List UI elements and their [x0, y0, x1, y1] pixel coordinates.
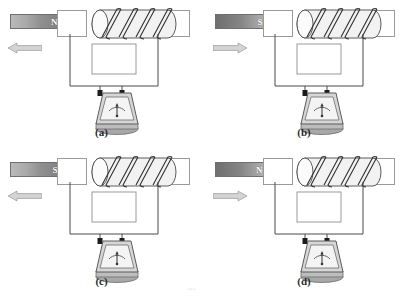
motion-arrow-right-icon — [213, 190, 247, 202]
circuit-wiring — [64, 182, 164, 244]
magnet-pole-label: N — [256, 165, 263, 175]
panel-caption: (b) — [203, 126, 405, 138]
motion-arrow-right-icon — [213, 42, 247, 54]
circuit-wiring — [64, 34, 164, 96]
motion-arrow-left-icon — [8, 42, 42, 54]
left-end-square — [263, 158, 293, 185]
circuit-wiring — [269, 182, 369, 244]
motion-arrow-left-icon — [8, 190, 42, 202]
left-end-square — [263, 10, 293, 37]
panel-caption: (c) — [0, 275, 203, 287]
left-end-square — [57, 10, 87, 37]
left-end-square — [57, 158, 87, 185]
panel-d: N — [203, 148, 405, 297]
panel-c: S — [0, 148, 203, 297]
induction-figure: N — [0, 0, 405, 297]
panel-caption: (d) — [203, 275, 405, 287]
scan-artifact: ▫▫▫ — [188, 286, 196, 292]
panel-caption: (a) — [0, 126, 203, 138]
panel-b: S — [203, 0, 405, 148]
circuit-wiring — [269, 34, 369, 96]
panel-a: N — [0, 0, 203, 148]
